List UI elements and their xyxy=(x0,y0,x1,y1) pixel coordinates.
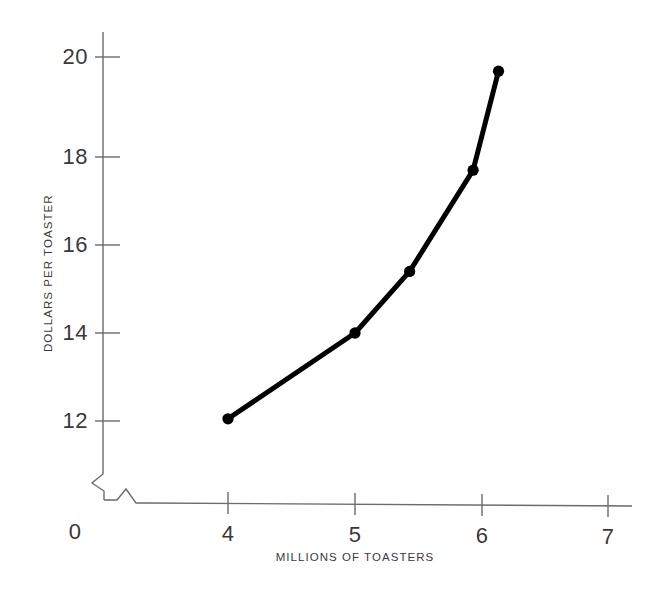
x-axis-line xyxy=(147,503,632,506)
y-axis-ticks xyxy=(95,57,120,421)
x-tick-label-7: 7 xyxy=(588,524,628,550)
y-tick-label-20: 20 xyxy=(48,44,88,70)
y-axis-title: DOLLARS PER TOASTER xyxy=(42,194,54,352)
data-point xyxy=(493,66,504,77)
x-axis-break-icon xyxy=(104,489,147,503)
x-tick-label-0: 0 xyxy=(55,519,95,545)
y-tick-label-14: 14 xyxy=(48,320,88,346)
y-axis-break-icon xyxy=(92,469,104,500)
series-markers-supply xyxy=(222,66,504,425)
chart-figure: 20 18 16 14 12 0 4 5 6 7 DOLLARS PER TOA… xyxy=(0,0,655,591)
data-point xyxy=(349,327,360,338)
x-tick-label-4: 4 xyxy=(208,521,248,547)
x-tick-label-5: 5 xyxy=(335,522,375,548)
x-tick-label-6: 6 xyxy=(462,523,502,549)
y-tick-label-18: 18 xyxy=(48,144,88,170)
y-tick-label-12: 12 xyxy=(48,408,88,434)
data-point xyxy=(222,413,233,424)
y-tick-label-16: 16 xyxy=(48,232,88,258)
data-point xyxy=(467,165,478,176)
data-point xyxy=(404,266,415,277)
chart-plot-area xyxy=(0,0,655,591)
x-axis-title: MILLIONS OF TOASTERS xyxy=(255,551,455,563)
series-line-supply xyxy=(228,71,499,419)
